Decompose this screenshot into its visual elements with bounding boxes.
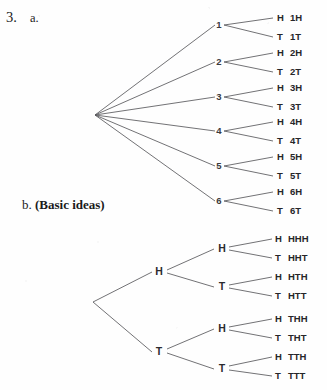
branch-TT-H bbox=[229, 357, 272, 366]
branch-root-H bbox=[93, 272, 152, 302]
leaf-coin: T bbox=[275, 253, 288, 263]
leaf-coin: T bbox=[275, 291, 288, 301]
branch-HT-H bbox=[229, 277, 272, 285]
leaf-coin: H bbox=[275, 352, 288, 362]
branch-T-T bbox=[167, 353, 214, 369]
leaf-row: HHTH bbox=[275, 272, 308, 282]
branch-TH-H bbox=[229, 319, 272, 327]
leaf-outcome: TTH bbox=[288, 352, 306, 362]
node-level2-TT: T bbox=[219, 363, 225, 374]
branch-HH-T bbox=[229, 250, 272, 258]
node-level2-HT: T bbox=[219, 281, 225, 292]
leaf-row: TTHT bbox=[275, 333, 306, 343]
leaf-row: HHHH bbox=[275, 234, 309, 244]
scanned-page: 3. a. 1 2 3 4 5 6 H1H T1T H2H T2T H bbox=[0, 0, 327, 390]
leaf-row: HTTH bbox=[275, 352, 306, 362]
leaf-row: TTTT bbox=[275, 371, 305, 381]
node-level2-TH: H bbox=[218, 323, 226, 334]
leaf-outcome: THT bbox=[288, 333, 306, 343]
leaf-coin: T bbox=[275, 371, 288, 381]
branch-H-H bbox=[167, 249, 214, 270]
leaf-outcome: TTT bbox=[288, 371, 305, 381]
node-level2-HH: H bbox=[218, 243, 226, 254]
node-level1-H: H bbox=[155, 266, 163, 277]
branch-HT-T bbox=[229, 288, 272, 296]
branch-T-H bbox=[167, 329, 214, 349]
leaf-coin: H bbox=[275, 314, 288, 324]
branch-H-T bbox=[167, 273, 214, 287]
leaf-coin: T bbox=[275, 333, 288, 343]
branch-TH-T bbox=[229, 330, 272, 338]
leaf-coin: H bbox=[275, 272, 288, 282]
branch-TT-T bbox=[229, 370, 272, 376]
leaf-outcome: THH bbox=[288, 314, 308, 324]
node-level1-T: T bbox=[156, 346, 162, 357]
branch-root-T bbox=[93, 302, 152, 352]
leaf-outcome: HHH bbox=[288, 234, 309, 244]
leaf-outcome: HHT bbox=[288, 253, 308, 263]
leaf-row: HTHH bbox=[275, 314, 308, 324]
leaf-coin: H bbox=[275, 234, 288, 244]
branch-HH-H bbox=[229, 239, 272, 247]
leaf-outcome: HTH bbox=[288, 272, 308, 282]
leaf-row: THHT bbox=[275, 253, 308, 263]
leaf-outcome: HTT bbox=[288, 291, 306, 301]
leaf-row: THTT bbox=[275, 291, 306, 301]
